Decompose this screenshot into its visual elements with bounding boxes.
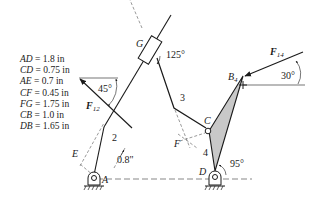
offset-label: 0.8" [117,154,134,165]
f12-angle-label: 45° [98,83,112,94]
point-g-label: G [136,38,143,49]
f14-angle-label: 30° [281,70,295,81]
link-2-label: 2 [112,132,117,143]
link-4-angle: 95° [219,158,244,175]
link-4-label: 4 [203,147,208,158]
slider-angle-label: 125° [166,49,185,60]
link-3-label: 3 [180,92,185,103]
point-d-label: D [198,166,207,177]
f14-label: F14 [269,46,284,59]
slider-rod [94,15,171,175]
point-c-label: C [204,115,211,126]
f12-label: F12 [85,100,100,113]
point-f-label: F [173,138,181,149]
joint-c: C [204,115,211,134]
force-f12: 45° F12 [79,78,132,128]
link-3: 3 [157,58,206,128]
point-e-label: E [71,148,78,159]
force-f14: 30° F14 [239,46,305,89]
point-b-label: B4 [228,71,238,84]
mechanism-diagram: 45° F12 0.8" G 125° 3 4 30° F14 [0,0,319,203]
point-a-label: A [101,174,109,185]
ground-pivot-d: D [198,166,225,190]
ground-pivot-a: A [84,172,109,190]
offset-dimension: 0.8" [117,150,134,165]
slider-angle: 125° [157,49,185,64]
link-4-angle-label: 95° [230,158,244,169]
